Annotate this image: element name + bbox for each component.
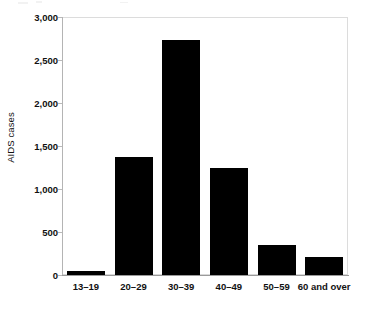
y-axis-title-label: AIDS cases bbox=[5, 112, 16, 163]
x-axis-tick-labels: 13–1920–2930–3940–4950–5960 and over bbox=[62, 281, 348, 299]
bar bbox=[115, 157, 153, 275]
bar bbox=[162, 40, 200, 275]
y-axis-tick-label: 3,000 bbox=[18, 12, 58, 23]
bar bbox=[305, 257, 343, 275]
y-axis-tick-labels: 05001,0001,5002,0002,5003,000 bbox=[16, 0, 58, 311]
bar bbox=[258, 245, 296, 275]
y-axis-tick-label: 500 bbox=[18, 227, 58, 238]
bar bbox=[67, 271, 105, 275]
y-axis-tick-label: 0 bbox=[18, 270, 58, 281]
y-axis-tick-label: 1,500 bbox=[18, 141, 58, 152]
y-axis-tick-label: 2,500 bbox=[18, 55, 58, 66]
bar-chart-figure: AIDS cases 05001,0001,5002,0002,5003,000… bbox=[0, 0, 372, 311]
bar bbox=[210, 168, 248, 275]
x-axis-baseline bbox=[62, 275, 349, 276]
scan-artifact bbox=[120, 2, 128, 3]
y-axis-tick-label: 1,000 bbox=[18, 184, 58, 195]
y-axis-tick-label: 2,000 bbox=[18, 98, 58, 109]
x-axis-tick-label: 60 and over bbox=[279, 281, 369, 292]
bars-layer bbox=[62, 17, 348, 275]
